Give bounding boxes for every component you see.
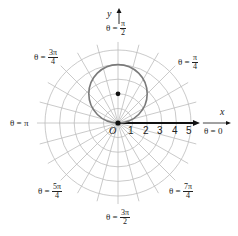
angle-label-0: θ = 0 (204, 127, 222, 136)
angle-prefix: θ = (106, 212, 120, 222)
grid-radial-line (118, 53, 159, 123)
angle-prefix: θ = (34, 52, 48, 62)
tick-4: 4 (172, 126, 178, 136)
angle-label-3pi-over-2: θ = 3π2 (106, 209, 130, 226)
y-axis-arrowhead-icon (117, 8, 122, 13)
angle-prefix: θ = (204, 126, 218, 136)
fraction: 3π4 (48, 49, 58, 66)
fraction: π4 (192, 54, 198, 71)
angle-value: π (24, 118, 29, 128)
grid-radial-line (118, 45, 139, 123)
polar-axis-arrowhead-icon (193, 120, 200, 126)
origin-label: O (109, 126, 116, 136)
angle-prefix: θ = (178, 57, 192, 67)
x-axis-arrowhead-icon (226, 121, 231, 125)
angle-prefix: θ = (106, 23, 120, 33)
grid-radial-line (118, 123, 159, 193)
y-axis-label: y (107, 9, 111, 19)
grid-radial-line (118, 82, 188, 123)
tick-2: 2 (143, 126, 149, 136)
polar-diagram: y x O 1 2 3 4 5 θ = 0 θ = π4 θ = π2 θ = … (0, 0, 238, 236)
denominator: 2 (120, 218, 130, 226)
denominator: 4 (52, 192, 62, 200)
denominator: 4 (183, 192, 193, 200)
grid-radial-line (77, 53, 118, 123)
fraction: 7π4 (183, 183, 193, 200)
denominator: 4 (48, 58, 58, 66)
grid-radial-line (48, 123, 118, 164)
angle-label-pi-over-4: θ = π4 (178, 54, 198, 71)
angle-prefix: θ = (169, 186, 183, 196)
center-point (116, 91, 121, 96)
grid-radial-line (40, 123, 118, 144)
tick-3: 3 (157, 126, 163, 136)
grid-radial-line (48, 82, 118, 123)
denominator: 4 (192, 63, 198, 71)
angle-label-3pi-over-4: θ = 3π4 (34, 49, 58, 66)
tick-1: 1 (128, 126, 134, 136)
angle-prefix: θ = (10, 118, 24, 128)
angle-prefix: θ = (38, 186, 52, 196)
angle-label-5pi-over-4: θ = 5π4 (38, 183, 62, 200)
angle-label-pi-over-2: θ = π2 (106, 20, 126, 37)
angle-value: 0 (218, 126, 223, 136)
denominator: 2 (120, 29, 126, 37)
x-axis-label: x (220, 107, 224, 117)
fraction: 3π2 (120, 209, 130, 226)
angle-label-pi: θ = π (10, 119, 28, 128)
fraction: π2 (120, 20, 126, 37)
grid-radial-line (97, 45, 118, 123)
angle-label-7pi-over-4: θ = 7π4 (169, 183, 193, 200)
origin-point (115, 120, 120, 125)
tick-5: 5 (186, 126, 192, 136)
fraction: 5π4 (52, 183, 62, 200)
